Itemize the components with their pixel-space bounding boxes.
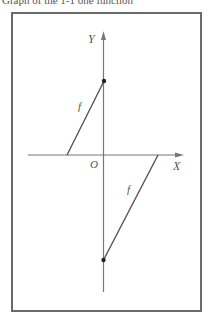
upper-point bbox=[102, 79, 106, 83]
x-axis-label: X bbox=[172, 159, 181, 173]
lower-right-segment bbox=[104, 155, 159, 260]
x-axis-arrow-icon bbox=[175, 153, 184, 158]
origin-label: O bbox=[90, 158, 98, 170]
lower-point bbox=[101, 258, 105, 262]
y-axis-arrow-icon bbox=[101, 31, 106, 40]
function-graph: Y X O f f bbox=[0, 0, 208, 315]
upper-left-segment bbox=[67, 81, 104, 155]
x-axis bbox=[28, 153, 184, 158]
y-axis bbox=[101, 31, 106, 292]
function-label-upper: f bbox=[78, 100, 83, 112]
function-label-lower: f bbox=[127, 183, 132, 195]
y-axis-label: Y bbox=[88, 32, 96, 46]
